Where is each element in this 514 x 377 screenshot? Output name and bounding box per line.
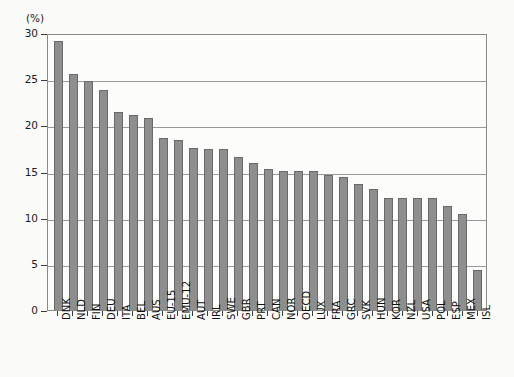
- y-tick-15: [41, 173, 47, 174]
- x-tick-can: [267, 311, 268, 316]
- x-axis-label-svk: SVK: [361, 300, 372, 320]
- x-axis-label-oecd: OECD: [301, 291, 312, 320]
- bar-usa: [413, 198, 422, 311]
- bar-kor: [384, 198, 393, 312]
- y-axis-label-25: 25: [14, 73, 38, 85]
- x-tick-grc: [342, 311, 343, 316]
- bar-grc: [339, 177, 348, 311]
- x-tick-mex: [462, 311, 463, 316]
- y-axis-unit-label: (%): [26, 12, 44, 24]
- bar-chart: (%) 051015202530 DNKNLDFINDEUITABELAUSEU…: [0, 0, 514, 377]
- y-axis-label-10: 10: [14, 212, 38, 224]
- bar-bel: [129, 115, 138, 311]
- bar-mex: [458, 214, 467, 311]
- bar-prt: [249, 163, 258, 311]
- x-axis-label-bel: BEL: [136, 301, 147, 320]
- x-axis-label-lux: LUX: [316, 300, 327, 320]
- bar-ita: [114, 112, 123, 311]
- x-tick-irl: [207, 311, 208, 316]
- x-axis-label-can: CAN: [271, 298, 282, 320]
- x-tick-isl: [477, 311, 478, 316]
- x-tick-emu-12: [177, 311, 178, 316]
- x-axis-label-fra: FRA: [331, 301, 342, 320]
- x-axis-label-ita: ITA: [121, 305, 132, 320]
- x-tick-hun: [372, 311, 373, 316]
- x-tick-nor: [282, 311, 283, 316]
- x-axis-label-deu: DEU: [106, 298, 117, 320]
- x-axis-label-grc: GRC: [346, 299, 357, 320]
- y-axis-label-15: 15: [14, 166, 38, 178]
- plot-area: [47, 34, 487, 311]
- x-tick-nld: [72, 311, 73, 316]
- bar-gbr: [234, 157, 243, 311]
- bar-dnk: [54, 41, 63, 311]
- x-axis-label-aut: AUT: [196, 299, 207, 320]
- x-axis-label-dnk: DNK: [61, 298, 72, 320]
- x-tick-usa: [417, 311, 418, 316]
- x-tick-deu: [102, 311, 103, 316]
- y-tick-5: [41, 265, 47, 266]
- x-axis-label-esp: ESP: [451, 301, 462, 320]
- x-tick-eu-15: [162, 311, 163, 316]
- bar-nzl: [398, 198, 407, 311]
- x-tick-pol: [432, 311, 433, 316]
- bar-fra: [324, 175, 333, 311]
- x-axis-label-isl: ISL: [481, 305, 492, 320]
- x-axis-label-nld: NLD: [76, 299, 87, 320]
- x-axis-label-eu-15: EU-15: [166, 290, 177, 320]
- x-axis-label-nor: NOR: [286, 297, 297, 320]
- x-axis-label-pol: POL: [436, 300, 447, 320]
- x-tick-fin: [87, 311, 88, 316]
- x-axis-label-usa: USA: [421, 299, 432, 320]
- bar-nld: [69, 74, 78, 311]
- bar-fin: [84, 81, 93, 311]
- x-tick-aus: [147, 311, 148, 316]
- bar-swe: [219, 149, 228, 311]
- bar-deu: [99, 90, 108, 311]
- x-tick-gbr: [237, 311, 238, 316]
- x-axis-label-fin: FIN: [91, 304, 102, 320]
- x-axis-label-irl: IRL: [211, 304, 222, 320]
- bar-irl: [204, 149, 213, 311]
- y-axis-label-20: 20: [14, 119, 38, 131]
- x-tick-kor: [387, 311, 388, 316]
- x-axis-label-kor: KOR: [391, 299, 402, 320]
- x-axis-label-mex: MEX: [466, 298, 477, 320]
- y-tick-25: [41, 80, 47, 81]
- x-tick-swe: [222, 311, 223, 316]
- x-tick-aut: [192, 311, 193, 316]
- x-tick-prt: [252, 311, 253, 316]
- bar-nor: [279, 171, 288, 311]
- x-tick-esp: [447, 311, 448, 316]
- x-axis-label-emu-12: EMU-12: [181, 281, 192, 320]
- x-tick-fra: [327, 311, 328, 316]
- x-axis-label-hun: HUN: [376, 297, 387, 320]
- x-tick-nzl: [402, 311, 403, 316]
- x-tick-oecd: [297, 311, 298, 316]
- x-tick-ita: [117, 311, 118, 316]
- y-tick-20: [41, 126, 47, 127]
- bar-aus: [144, 118, 153, 311]
- bar-hun: [369, 189, 378, 311]
- x-tick-lux: [312, 311, 313, 316]
- bar-svk: [354, 184, 363, 311]
- bar-pol: [428, 198, 437, 311]
- gridline-25: [48, 81, 486, 82]
- bar-esp: [443, 206, 452, 311]
- x-axis-label-aus: AUS: [151, 299, 162, 320]
- y-axis-label-0: 0: [14, 304, 38, 316]
- bar-can: [264, 169, 273, 311]
- y-tick-0: [41, 311, 47, 312]
- x-axis-label-nzl: NZL: [406, 300, 417, 320]
- x-tick-bel: [132, 311, 133, 316]
- y-axis-label-30: 30: [14, 27, 38, 39]
- y-tick-30: [41, 34, 47, 35]
- x-axis-label-swe: SWE: [226, 297, 237, 320]
- x-axis-label-gbr: GBR: [241, 298, 252, 320]
- x-tick-dnk: [57, 311, 58, 316]
- y-tick-10: [41, 219, 47, 220]
- bar-eu-15: [159, 138, 168, 311]
- x-axis-label-prt: PRT: [256, 301, 267, 320]
- x-tick-svk: [357, 311, 358, 316]
- y-axis-label-5: 5: [14, 258, 38, 270]
